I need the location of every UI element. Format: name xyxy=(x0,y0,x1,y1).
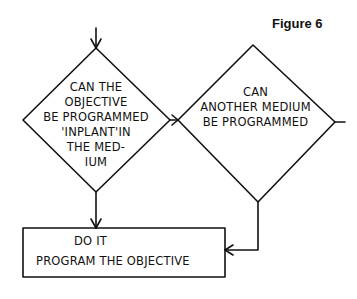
decision2-line: CAN xyxy=(188,85,323,100)
decision1-label: CAN THE OBJECTIVE BE PROGRAMMED 'INPLANT… xyxy=(26,80,166,170)
decision1-line: IUM xyxy=(26,155,166,170)
decision1-line: 'INPLANT'IN xyxy=(26,125,166,140)
decision1-line: OBJECTIVE xyxy=(26,95,166,110)
decision1-line: CAN THE xyxy=(26,80,166,95)
action-line: PROGRAM THE OBJECTIVE xyxy=(36,254,190,269)
action-label: DO IT PROGRAM THE OBJECTIVE xyxy=(36,234,190,269)
decision2-line: ANOTHER MEDIUM xyxy=(188,100,323,115)
decision2-label: CAN ANOTHER MEDIUM BE PROGRAMMED xyxy=(188,85,323,130)
flowchart-figure: Figure 6 CAN THE OBJECTIVE xyxy=(0,0,357,299)
action-line: DO IT xyxy=(36,234,190,249)
decision1-line: BE PROGRAMMED xyxy=(26,110,166,125)
decision2-line: BE PROGRAMMED xyxy=(188,115,323,130)
decision1-line: THE MED- xyxy=(26,140,166,155)
